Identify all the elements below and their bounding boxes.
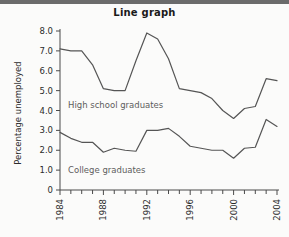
line-chart-plot: 01.02.03.04.05.06.07.08.0 19841988199219… — [0, 0, 289, 237]
y-tick-label: 7.0 — [39, 46, 53, 56]
series-line — [60, 119, 277, 158]
y-tick-label: 2.0 — [39, 145, 53, 155]
y-axis: 01.02.03.04.05.06.07.08.0 — [39, 26, 60, 195]
y-tick-label: 8.0 — [39, 26, 53, 36]
x-tick-label: 2004 — [272, 199, 282, 221]
x-tick-label: 2000 — [229, 199, 239, 221]
series-annotations: High school graduatesCollege graduates — [68, 100, 164, 175]
x-tick-label: 1984 — [55, 199, 65, 221]
series-annotation: College graduates — [68, 165, 146, 175]
data-series-group — [60, 33, 277, 158]
series-annotation: High school graduates — [68, 100, 164, 110]
y-tick-labels: 01.02.03.04.05.06.07.08.0 — [39, 26, 53, 195]
figure-canvas: Line graph Percentage unemployed 01.02.0… — [0, 0, 289, 237]
x-axis: 198419881992199620002004 — [55, 190, 282, 221]
y-tick-label: 3.0 — [39, 125, 53, 135]
y-tick-label: 6.0 — [39, 66, 53, 76]
x-tick-labels: 198419881992199620002004 — [55, 199, 282, 221]
x-tick-marks — [60, 190, 277, 195]
x-tick-label: 1992 — [142, 199, 152, 221]
y-tick-label: 4.0 — [39, 106, 53, 116]
y-tick-marks — [56, 31, 60, 190]
x-tick-label: 1996 — [185, 199, 195, 221]
x-tick-label: 1988 — [98, 199, 108, 221]
y-tick-label: 5.0 — [39, 86, 53, 96]
y-tick-label: 1.0 — [39, 165, 53, 175]
y-tick-label: 0 — [48, 185, 53, 195]
